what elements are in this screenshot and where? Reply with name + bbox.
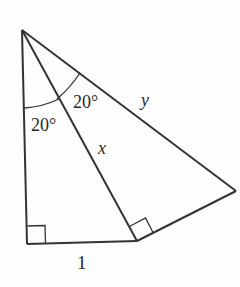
side-label-y: y [139,90,149,110]
right-angle-marker-mid [130,218,154,233]
side-label-x: x [97,138,106,158]
angle-label-lower: 20° [31,115,56,135]
base-edge [27,241,137,244]
triangle-diagram: 20° 20° y x 1 [0,0,240,287]
angle-label-upper: 20° [73,92,98,112]
hypotenuse-edge-y [22,30,236,191]
middle-edge-x [22,30,137,241]
right-angle-marker-left [27,226,45,244]
angle-arc-lower [25,99,60,108]
diagram-svg: 20° 20° y x 1 [0,0,240,287]
side-label-base: 1 [77,252,87,273]
left-edge [22,30,27,244]
right-lower-edge [137,191,236,241]
